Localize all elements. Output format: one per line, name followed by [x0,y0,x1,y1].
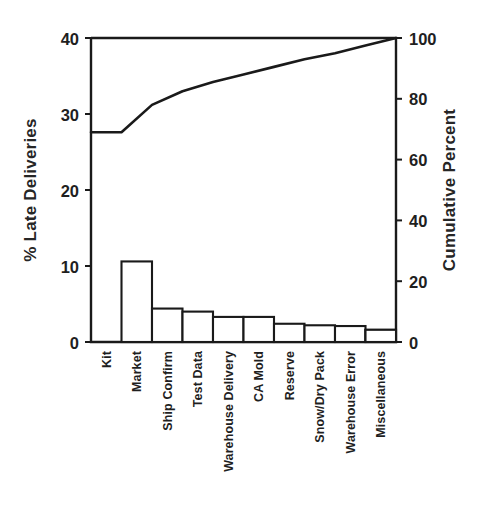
cat-label-kit: Kit [100,350,114,368]
cat-label-test-data: Test Data [191,350,205,407]
bar-kit[interactable] [122,261,153,342]
right-tick-0: 0 [409,334,418,352]
right-tick-40: 40 [409,212,427,230]
left-tick-0: 0 [70,334,79,352]
left-tick-20: 20 [61,182,79,200]
left-tick-30: 30 [61,106,79,124]
cat-label-reserve: Reserve [283,351,297,400]
right-tick-20: 20 [409,273,427,291]
bar-miscellaneous[interactable] [366,330,397,342]
left-tick-10: 10 [61,258,79,276]
bar-ca-mold[interactable] [274,324,305,342]
left-tick-40: 40 [61,30,79,48]
chart-canvas: 40 30 20 10 0 100 80 60 40 20 0 % Late D… [0,0,482,510]
y2-axis-title: Cumulative Percent [440,109,459,271]
bar-ship-confirm[interactable] [183,312,214,342]
bar-warehouse-delivery[interactable] [244,317,275,342]
bar-test-data[interactable] [213,317,244,342]
bar-reserve[interactable] [305,325,336,342]
bar-snow-dry-pack[interactable] [335,326,366,342]
y-axis-title: % Late Deliveries [21,118,40,261]
cat-label-snow-dry-pack: Snow/Dry Pack [313,351,327,443]
chart-background [0,0,482,510]
cat-label-miscellaneous: Miscellaneous [374,351,388,438]
right-tick-60: 60 [409,151,427,169]
cat-label-warehouse-error: Warehouse Error [344,351,358,453]
cat-label-ca-mold: CA Mold [252,351,266,402]
bar-market[interactable] [152,309,183,342]
pareto-chart: 40 30 20 10 0 100 80 60 40 20 0 % Late D… [0,0,482,510]
cat-label-market: Market [130,350,144,392]
right-tick-100: 100 [409,30,437,48]
cat-label-ship-confirm: Ship Confirm [161,351,175,431]
right-tick-80: 80 [409,90,427,108]
cat-label-warehouse-delivery: Warehouse Delivery [222,351,236,472]
